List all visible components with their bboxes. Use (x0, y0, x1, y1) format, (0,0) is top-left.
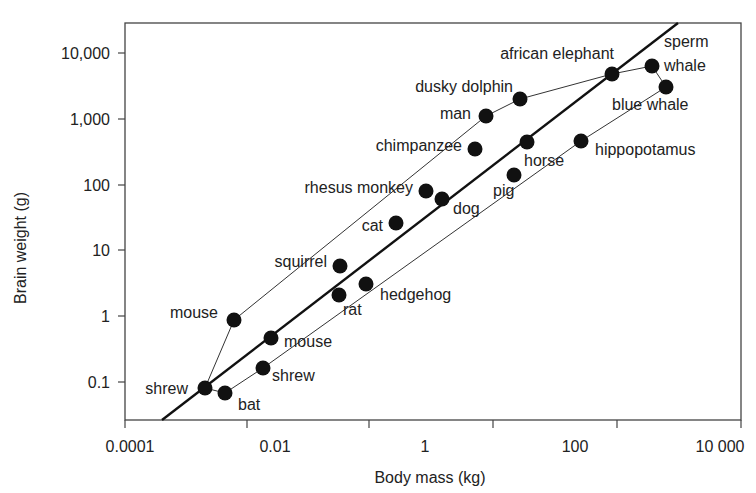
label-squirrel: squirrel (275, 253, 327, 270)
x-tick-10000: 10 000 (696, 438, 745, 455)
y-tick-100: 100 (83, 177, 110, 194)
label-horse: horse (524, 152, 564, 169)
y-tick-0-1: 0.1 (88, 374, 110, 391)
point-shrew (198, 381, 213, 396)
data-points (198, 59, 674, 401)
label-chimpanzee: chimpanzee (376, 137, 462, 154)
point-dusky-dolphin (513, 92, 528, 107)
point-shrew-lower (256, 361, 271, 376)
label-mouse-upper: mouse (170, 304, 218, 321)
label-man: man (440, 105, 471, 122)
point-african-elephant (605, 67, 620, 82)
point-blue-whale (659, 80, 674, 95)
x-axis-title: Body mass (kg) (374, 469, 485, 486)
label-sperm: sperm (664, 33, 708, 50)
label-shrew: shrew (145, 380, 188, 397)
point-cat (389, 216, 404, 231)
label-rhesus-monkey: rhesus monkey (305, 179, 414, 196)
y-axis-title: Brain weight (g) (12, 192, 29, 304)
label-bat: bat (238, 396, 261, 413)
x-tick-0-01: 0.01 (259, 438, 290, 455)
label-hedgehog: hedgehog (380, 286, 451, 303)
y-tick-10000: 10,000 (61, 45, 110, 62)
x-tick-0-0001: 0.0001 (106, 438, 155, 455)
point-hippopotamus (574, 134, 589, 149)
point-sperm-whale (645, 59, 660, 74)
y-tick-1: 1 (101, 308, 110, 325)
point-chimpanzee (468, 142, 483, 157)
point-horse (520, 135, 535, 150)
label-shrew-lower: shrew (272, 367, 315, 384)
x-axis-ticks (125, 420, 741, 428)
y-tick-labels: 10,000 1,000 100 10 1 0.1 (61, 45, 110, 391)
point-rhesus-monkey (419, 184, 434, 199)
point-squirrel (333, 259, 348, 274)
point-man (479, 109, 494, 124)
label-hippopotamus: hippopotamus (595, 141, 696, 158)
label-cat: cat (362, 217, 384, 234)
label-rat: rat (343, 301, 362, 318)
y-tick-10: 10 (92, 242, 110, 259)
label-dog: dog (453, 200, 480, 217)
x-tick-labels: 0.0001 0.01 1 100 10 000 (106, 438, 745, 455)
y-tick-1000: 1,000 (70, 111, 110, 128)
label-mouse: mouse (284, 333, 332, 350)
point-hedgehog (359, 277, 374, 292)
label-sperm-whale: whale (663, 57, 706, 74)
x-tick-1: 1 (421, 438, 430, 455)
label-african-elephant: african elephant (500, 45, 614, 62)
brain-body-scatter-chart: 10,000 1,000 100 10 1 0.1 0.0001 0.01 1 … (0, 0, 756, 493)
label-dusky-dolphin: dusky dolphin (415, 78, 513, 95)
point-bat (218, 386, 233, 401)
point-dog (435, 192, 450, 207)
x-tick-100: 100 (562, 438, 589, 455)
point-mouse-upper (227, 313, 242, 328)
y-axis-ticks (118, 53, 125, 382)
point-mouse (264, 331, 279, 346)
point-labels: shrew bat mouse mouse shrew rat squirrel… (145, 33, 708, 413)
label-blue-whale: blue whale (612, 96, 689, 113)
label-pig: pig (493, 182, 514, 199)
point-pig (507, 168, 522, 183)
